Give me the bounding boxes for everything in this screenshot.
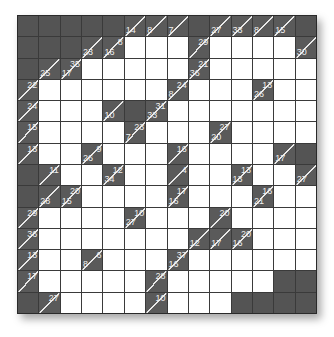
entry-cell[interactable] (61, 122, 81, 142)
entry-cell[interactable] (146, 37, 166, 57)
entry-cell[interactable] (296, 80, 316, 100)
entry-cell[interactable] (189, 122, 209, 142)
entry-cell[interactable] (125, 271, 145, 291)
entry-cell[interactable] (274, 122, 294, 142)
entry-cell[interactable] (125, 37, 145, 57)
entry-cell[interactable] (296, 122, 316, 142)
entry-cell[interactable] (253, 229, 273, 249)
entry-cell[interactable] (61, 80, 81, 100)
entry-cell[interactable] (125, 229, 145, 249)
entry-cell[interactable] (296, 250, 316, 270)
entry-cell[interactable] (61, 165, 81, 185)
entry-cell[interactable] (125, 144, 145, 164)
entry-cell[interactable] (39, 101, 59, 121)
entry-cell[interactable] (168, 37, 188, 57)
entry-cell[interactable] (39, 80, 59, 100)
entry-cell[interactable] (274, 80, 294, 100)
entry-cell[interactable] (189, 186, 209, 206)
entry-cell[interactable] (82, 122, 102, 142)
entry-cell[interactable] (232, 250, 252, 270)
entry-cell[interactable] (232, 37, 252, 57)
entry-cell[interactable] (253, 144, 273, 164)
entry-cell[interactable] (168, 293, 188, 313)
entry-cell[interactable] (232, 122, 252, 142)
entry-cell[interactable] (103, 80, 123, 100)
entry-cell[interactable] (39, 271, 59, 291)
entry-cell[interactable] (274, 101, 294, 121)
entry-cell[interactable] (125, 250, 145, 270)
entry-cell[interactable] (274, 250, 294, 270)
entry-cell[interactable] (296, 101, 316, 121)
entry-cell[interactable] (61, 101, 81, 121)
entry-cell[interactable] (125, 59, 145, 79)
entry-cell[interactable] (274, 229, 294, 249)
entry-cell[interactable] (103, 208, 123, 228)
entry-cell[interactable] (168, 59, 188, 79)
entry-cell[interactable] (168, 229, 188, 249)
entry-cell[interactable] (103, 250, 123, 270)
entry-cell[interactable] (146, 80, 166, 100)
entry-cell[interactable] (232, 186, 252, 206)
entry-cell[interactable] (82, 59, 102, 79)
entry-cell[interactable] (103, 293, 123, 313)
entry-cell[interactable] (39, 229, 59, 249)
entry-cell[interactable] (210, 37, 230, 57)
entry-cell[interactable] (82, 293, 102, 313)
entry-cell[interactable] (146, 208, 166, 228)
entry-cell[interactable] (189, 144, 209, 164)
entry-cell[interactable] (296, 59, 316, 79)
entry-cell[interactable] (61, 144, 81, 164)
entry-cell[interactable] (82, 165, 102, 185)
entry-cell[interactable] (125, 186, 145, 206)
entry-cell[interactable] (274, 165, 294, 185)
entry-cell[interactable] (232, 80, 252, 100)
entry-cell[interactable] (189, 80, 209, 100)
entry-cell[interactable] (189, 250, 209, 270)
entry-cell[interactable] (210, 186, 230, 206)
entry-cell[interactable] (39, 208, 59, 228)
entry-cell[interactable] (274, 59, 294, 79)
entry-cell[interactable] (253, 208, 273, 228)
entry-cell[interactable] (296, 208, 316, 228)
entry-cell[interactable] (146, 229, 166, 249)
entry-cell[interactable] (61, 293, 81, 313)
entry-cell[interactable] (253, 101, 273, 121)
entry-cell[interactable] (103, 229, 123, 249)
entry-cell[interactable] (189, 208, 209, 228)
entry-cell[interactable] (146, 250, 166, 270)
entry-cell[interactable] (103, 271, 123, 291)
entry-cell[interactable] (232, 144, 252, 164)
entry-cell[interactable] (210, 293, 230, 313)
entry-cell[interactable] (253, 165, 273, 185)
entry-cell[interactable] (125, 293, 145, 313)
entry-cell[interactable] (274, 37, 294, 57)
entry-cell[interactable] (253, 37, 273, 57)
entry-cell[interactable] (61, 250, 81, 270)
entry-cell[interactable] (103, 122, 123, 142)
entry-cell[interactable] (146, 144, 166, 164)
entry-cell[interactable] (168, 271, 188, 291)
entry-cell[interactable] (189, 101, 209, 121)
entry-cell[interactable] (82, 80, 102, 100)
entry-cell[interactable] (189, 293, 209, 313)
entry-cell[interactable] (82, 229, 102, 249)
entry-cell[interactable] (146, 186, 166, 206)
entry-cell[interactable] (61, 271, 81, 291)
entry-cell[interactable] (39, 122, 59, 142)
entry-cell[interactable] (210, 144, 230, 164)
entry-cell[interactable] (296, 186, 316, 206)
entry-cell[interactable] (253, 271, 273, 291)
entry-cell[interactable] (103, 144, 123, 164)
entry-cell[interactable] (103, 186, 123, 206)
entry-cell[interactable] (210, 59, 230, 79)
entry-cell[interactable] (253, 59, 273, 79)
entry-cell[interactable] (210, 271, 230, 291)
entry-cell[interactable] (189, 165, 209, 185)
entry-cell[interactable] (210, 165, 230, 185)
entry-cell[interactable] (61, 208, 81, 228)
entry-cell[interactable] (61, 229, 81, 249)
entry-cell[interactable] (232, 208, 252, 228)
entry-cell[interactable] (125, 165, 145, 185)
entry-cell[interactable] (168, 101, 188, 121)
entry-cell[interactable] (253, 122, 273, 142)
